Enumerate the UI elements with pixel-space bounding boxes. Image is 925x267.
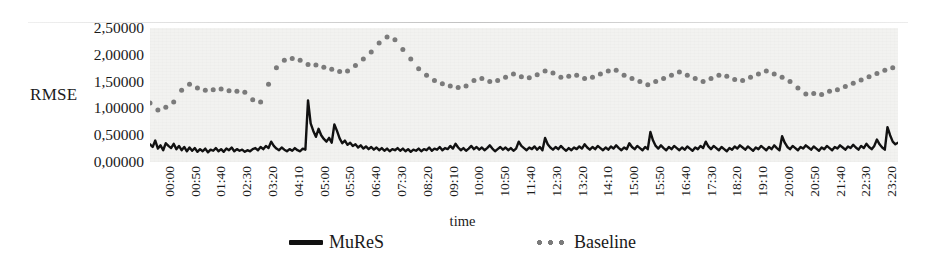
baseline-data-point bbox=[701, 79, 706, 84]
x-tick-label: 07:30 bbox=[395, 166, 409, 197]
baseline-data-point bbox=[851, 81, 856, 86]
baseline-data-point bbox=[306, 62, 311, 67]
baseline-data-point bbox=[527, 75, 532, 80]
baseline-data-point bbox=[788, 79, 793, 84]
baseline-data-point bbox=[843, 84, 848, 89]
baseline-data-point bbox=[440, 81, 445, 86]
baseline-data-point bbox=[629, 76, 634, 81]
baseline-data-point bbox=[709, 76, 714, 81]
baseline-data-point bbox=[882, 68, 887, 73]
baseline-data-point bbox=[416, 66, 421, 71]
baseline-data-point bbox=[400, 47, 405, 52]
baseline-data-point bbox=[637, 79, 642, 84]
baseline-data-point bbox=[424, 73, 429, 78]
baseline-data-point bbox=[345, 68, 350, 73]
baseline-data-point bbox=[732, 77, 737, 82]
baseline-data-point bbox=[337, 69, 342, 74]
baseline-data-point bbox=[669, 73, 674, 78]
x-tick-label: 10:50 bbox=[498, 166, 512, 197]
x-tick-label: 10:00 bbox=[472, 166, 486, 197]
baseline-data-point bbox=[361, 57, 366, 62]
x-tick-label: 00:50 bbox=[189, 166, 203, 197]
y-tick-label: 2,00000 bbox=[94, 47, 144, 63]
plot-area bbox=[150, 28, 898, 162]
series-canvas bbox=[150, 28, 898, 162]
legend-entry-mures: MuReS bbox=[289, 232, 384, 253]
y-tick-label: 2,50000 bbox=[94, 20, 144, 36]
baseline-data-point bbox=[811, 91, 816, 96]
x-tick-label: 05:50 bbox=[343, 166, 357, 197]
baseline-data-point bbox=[242, 90, 247, 95]
baseline-data-point bbox=[203, 88, 208, 93]
baseline-data-point bbox=[590, 75, 595, 80]
baseline-data-point bbox=[321, 65, 326, 70]
x-tick-label: 13:20 bbox=[576, 166, 590, 197]
baseline-data-point bbox=[535, 72, 540, 77]
x-tick-label: 01:40 bbox=[214, 166, 228, 197]
baseline-data-point bbox=[677, 69, 682, 74]
baseline-data-point bbox=[163, 105, 168, 110]
baseline-data-point bbox=[661, 76, 666, 81]
baseline-data-point bbox=[795, 86, 800, 91]
baseline-data-point bbox=[432, 78, 437, 83]
baseline-data-point bbox=[479, 76, 484, 81]
baseline-data-point bbox=[827, 89, 832, 94]
x-tick-label: 17:30 bbox=[705, 166, 719, 197]
baseline-data-point bbox=[724, 74, 729, 79]
y-tick-label: 0,00000 bbox=[94, 154, 144, 170]
baseline-data-point bbox=[329, 67, 334, 72]
baseline-data-point bbox=[274, 65, 279, 70]
x-tick-label: 11:40 bbox=[524, 166, 538, 196]
x-tick-label: 20:00 bbox=[782, 166, 796, 197]
baseline-data-point bbox=[748, 75, 753, 80]
baseline-data-point bbox=[211, 87, 216, 92]
x-tick-label: 21:40 bbox=[834, 166, 848, 197]
baseline-data-point bbox=[598, 72, 603, 77]
baseline-data-point bbox=[550, 71, 555, 76]
x-tick-label: 23:20 bbox=[885, 166, 899, 197]
x-tick-label: 00:00 bbox=[163, 166, 177, 197]
baseline-data-point bbox=[219, 87, 224, 92]
baseline-data-point bbox=[408, 57, 413, 62]
baseline-data-point bbox=[155, 108, 160, 113]
x-tick-label: 05:00 bbox=[318, 166, 332, 197]
baseline-data-point bbox=[780, 75, 785, 80]
baseline-data-point bbox=[448, 83, 453, 88]
legend-label-mures: MuReS bbox=[329, 232, 384, 253]
y-tick-label: 1,50000 bbox=[94, 74, 144, 90]
baseline-data-point bbox=[543, 68, 548, 73]
baseline-data-point bbox=[614, 68, 619, 73]
baseline-data-point bbox=[385, 35, 390, 40]
baseline-data-point bbox=[622, 73, 627, 78]
x-axis-tick-labels: 00:0000:5001:4002:3003:2004:1005:0005:50… bbox=[150, 166, 898, 214]
baseline-data-point bbox=[606, 68, 611, 73]
x-tick-label: 14:10 bbox=[601, 166, 615, 197]
baseline-data-point bbox=[227, 88, 232, 93]
solid-line-swatch-icon bbox=[289, 240, 323, 245]
x-tick-label: 04:10 bbox=[292, 166, 306, 197]
baseline-data-point bbox=[803, 91, 808, 96]
y-tick-label: 1,00000 bbox=[94, 101, 144, 117]
baseline-data-point bbox=[740, 78, 745, 83]
x-tick-label: 06:40 bbox=[369, 166, 383, 197]
baseline-data-point bbox=[179, 88, 184, 93]
baseline-data-point bbox=[558, 75, 563, 80]
x-tick-label: 12:30 bbox=[550, 166, 564, 197]
baseline-series-dots bbox=[150, 35, 895, 113]
baseline-data-point bbox=[487, 79, 492, 84]
y-tick-label: 0,50000 bbox=[94, 127, 144, 143]
baseline-data-point bbox=[574, 73, 579, 78]
baseline-data-point bbox=[653, 79, 658, 84]
baseline-data-point bbox=[764, 68, 769, 73]
baseline-data-point bbox=[377, 41, 382, 46]
baseline-data-point bbox=[456, 85, 461, 90]
x-tick-label: 09:10 bbox=[447, 166, 461, 197]
baseline-data-point bbox=[890, 65, 895, 70]
baseline-data-point bbox=[503, 75, 508, 80]
chart-legend: MuReS Baseline bbox=[0, 232, 925, 253]
baseline-data-point bbox=[290, 56, 295, 61]
baseline-data-point bbox=[495, 78, 500, 83]
baseline-data-point bbox=[171, 99, 176, 104]
x-tick-label: 08:20 bbox=[421, 166, 435, 197]
baseline-data-point bbox=[645, 82, 650, 87]
